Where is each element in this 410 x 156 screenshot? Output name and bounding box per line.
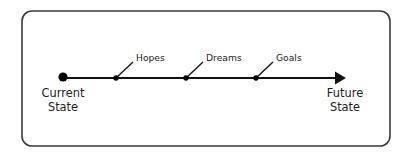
milestone-label-goals: Goals [276, 52, 302, 63]
milestone-node-hopes [113, 75, 118, 80]
milestone-node-dreams [183, 75, 188, 80]
arrowhead-right-icon [335, 72, 346, 85]
leader-line-hopes [116, 62, 133, 78]
future-state-label-line1: Future [327, 86, 363, 100]
leader-line-dreams [186, 62, 203, 78]
current-state-node [58, 72, 67, 81]
future-state-label-line2: State [330, 100, 360, 114]
diagram-canvas: Hopes Dreams Goals Current State Future … [0, 0, 410, 156]
current-state-label-line1: Current [42, 86, 85, 100]
milestone-label-hopes: Hopes [136, 52, 165, 63]
milestone-label-dreams: Dreams [206, 52, 242, 63]
current-state-label-line2: State [48, 100, 78, 114]
milestone-node-goals [253, 75, 258, 80]
timeline-diagram: Hopes Dreams Goals Current State Future … [0, 0, 410, 156]
leader-line-goals [256, 62, 273, 78]
